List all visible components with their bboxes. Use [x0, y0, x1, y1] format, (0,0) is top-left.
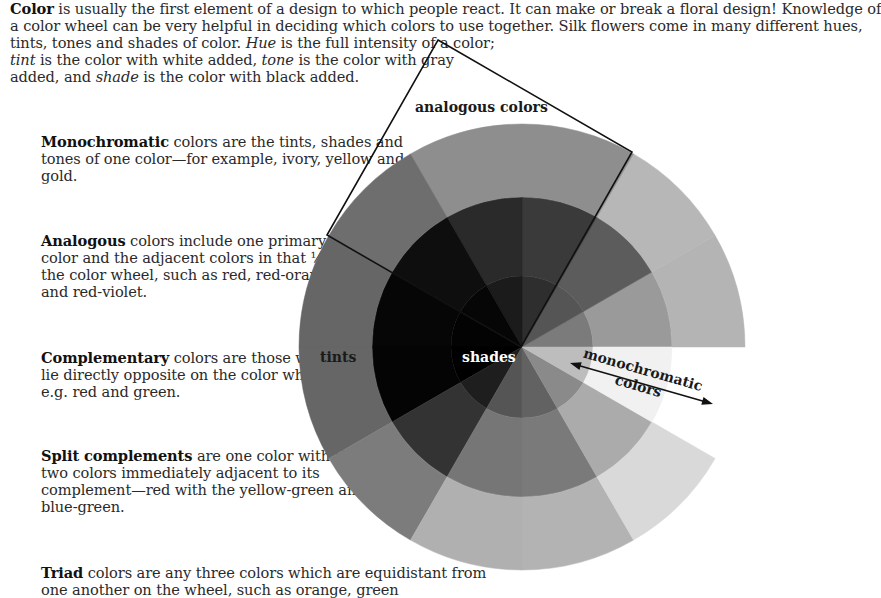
tints-label: tints	[320, 349, 356, 365]
wheel-sectors	[299, 124, 745, 570]
analogous-colors-label: analogous colors	[415, 99, 548, 115]
shades-label: shades	[462, 349, 516, 365]
